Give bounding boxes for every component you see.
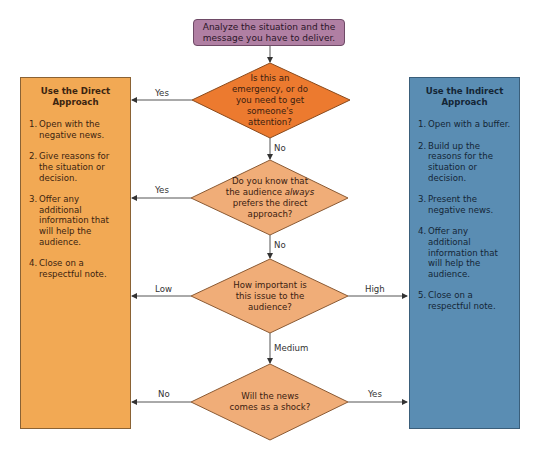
step-number: 1. <box>418 119 428 130</box>
step-number: 2. <box>418 141 428 183</box>
title-line: Use the Indirect <box>418 86 511 97</box>
indirect-approach-title: Use the Indirect Approach <box>418 86 511 107</box>
step-number: 3. <box>29 194 39 247</box>
step-number: 5. <box>418 290 428 311</box>
indirect-step: 2.Build up the reasons for the situation… <box>418 141 511 183</box>
decision-line: emergency, or do <box>215 84 325 95</box>
indirect-step: 3.Present the negative news. <box>418 194 511 215</box>
edge-label-importance-high: High <box>365 284 385 294</box>
step-text: Open with a buffer. <box>428 119 510 130</box>
step-number: 4. <box>418 226 428 279</box>
step-text: Offer any additional information that wi… <box>428 226 511 279</box>
direct-step: 4.Close on a respectful note. <box>29 258 122 279</box>
decision-shock-text: Will the news comes as a shock? <box>210 391 330 413</box>
direct-step: 1.Open with the negative news. <box>29 119 122 140</box>
decision-line-part: the audience <box>226 187 285 197</box>
decision-line: this issue to the <box>215 291 325 302</box>
edge-label-emergency-yes: Yes <box>155 88 169 98</box>
step-text: Open with the negative news. <box>39 119 122 140</box>
edge-label-importance-medium: Medium <box>274 343 308 353</box>
direct-step: 3.Offer any additional information that … <box>29 194 122 247</box>
decision-always-direct-text: Do you know that the audience always pre… <box>210 176 330 220</box>
edge-label-shock-no: No <box>158 389 170 399</box>
decision-line: prefers the direct <box>210 198 330 209</box>
step-text: Close on a respectful note. <box>39 258 122 279</box>
decision-line: attention? <box>215 117 325 128</box>
direct-approach-steps: 1.Open with the negative news. 2.Give re… <box>29 119 122 279</box>
title-line: Approach <box>29 97 122 108</box>
start-text: Analyze the situation and the message yo… <box>203 22 336 43</box>
step-text: Present the negative news. <box>428 194 511 215</box>
decision-line: approach? <box>210 209 330 220</box>
decision-importance-text: How important is this issue to the audie… <box>215 280 325 313</box>
direct-step: 2.Give reasons for the situation or deci… <box>29 151 122 183</box>
title-line: Approach <box>418 97 511 108</box>
edge-label-shock-yes: Yes <box>368 389 382 399</box>
edge-label-importance-low: Low <box>155 284 172 294</box>
decision-line: you need to get <box>215 95 325 106</box>
indirect-step: 1.Open with a buffer. <box>418 119 511 130</box>
step-text: Build up the reasons for the situation o… <box>428 141 511 183</box>
direct-approach-title: Use the Direct Approach <box>29 86 122 107</box>
start-box: Analyze the situation and the message yo… <box>193 19 345 46</box>
decision-line: Do you know that <box>210 176 330 187</box>
step-text: Give reasons for the situation or decisi… <box>39 151 122 183</box>
indirect-approach-panel: Use the Indirect Approach 1.Open with a … <box>409 77 520 429</box>
edge-label-always-direct-yes: Yes <box>155 185 169 195</box>
step-number: 1. <box>29 119 39 140</box>
decision-line: Will the news <box>210 391 330 402</box>
step-text: Offer any additional information that wi… <box>39 194 122 247</box>
decision-line: How important is <box>215 280 325 291</box>
step-text: Close on a respectful note. <box>428 290 511 311</box>
decision-line: someone's <box>215 106 325 117</box>
decision-line: comes as a shock? <box>210 402 330 413</box>
decision-line: the audience always <box>210 187 330 198</box>
step-number: 2. <box>29 151 39 183</box>
edge-label-emergency-no: No <box>274 143 286 153</box>
decision-line: Is this an <box>215 73 325 84</box>
direct-approach-panel: Use the Direct Approach 1.Open with the … <box>20 77 131 429</box>
step-number: 4. <box>29 258 39 279</box>
indirect-approach-steps: 1.Open with a buffer. 2.Build up the rea… <box>418 119 511 311</box>
title-line: Use the Direct <box>29 86 122 97</box>
step-number: 3. <box>418 194 428 215</box>
edge-label-always-direct-no: No <box>274 240 286 250</box>
decision-line: audience? <box>215 302 325 313</box>
indirect-step: 5.Close on a respectful note. <box>418 290 511 311</box>
decision-emergency-text: Is this an emergency, or do you need to … <box>215 73 325 128</box>
indirect-step: 4.Offer any additional information that … <box>418 226 511 279</box>
decision-emphasis: always <box>285 187 315 197</box>
